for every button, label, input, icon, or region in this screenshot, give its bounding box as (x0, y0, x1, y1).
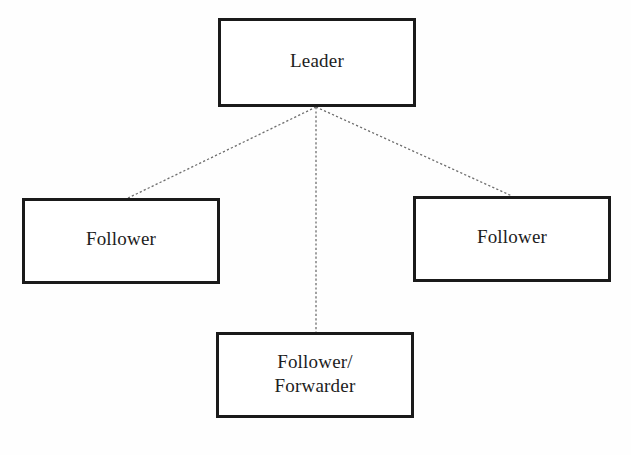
diagram-canvas: Leader Follower Follower Follower/ Forwa… (0, 0, 631, 455)
node-leader-label: Leader (290, 49, 344, 76)
node-follower-forwarder[interactable]: Follower/ Forwarder (216, 332, 414, 418)
node-follower-left-label: Follower (86, 227, 156, 254)
connector-leader-to-follower-left (128, 107, 316, 198)
node-follower-right[interactable]: Follower (413, 196, 611, 282)
node-leader[interactable]: Leader (218, 18, 416, 107)
node-follower-forwarder-label: Follower/ Forwarder (275, 350, 356, 401)
node-follower-left[interactable]: Follower (22, 198, 220, 284)
node-follower-right-label: Follower (477, 225, 547, 252)
connector-leader-to-follower-right (316, 107, 512, 196)
